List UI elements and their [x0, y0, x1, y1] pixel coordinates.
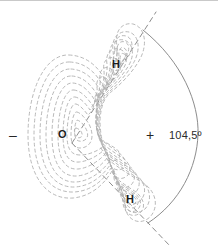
atom-label-hydrogen-bottom: H — [126, 194, 134, 205]
bond-angle-label: 104,5º — [169, 130, 202, 141]
contour-level-3 — [40, 40, 145, 205]
contour-level-8 — [67, 94, 120, 161]
contour-level-10 — [75, 120, 88, 141]
contour-level-11 — [74, 128, 82, 138]
water-electron-density-figure: O H H – + 104,5º — [0, 0, 218, 252]
atom-label-hydrogen-top: H — [112, 59, 120, 70]
contour-level-4 — [46, 49, 139, 196]
atom-label-oxygen: O — [58, 129, 67, 140]
electron-density-contours — [0, 0, 218, 252]
contour-level-2 — [34, 32, 150, 213]
negative-charge-label: – — [9, 128, 17, 142]
positive-charge-label: + — [146, 128, 154, 142]
